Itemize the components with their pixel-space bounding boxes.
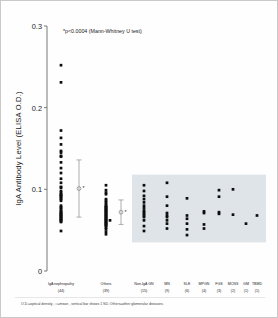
data-point [203,223,206,226]
data-point [166,219,169,222]
data-point [218,195,221,198]
data-point [143,230,146,233]
data-point [105,193,108,196]
footnote-text: O.D.=optical density , ○=mean , vertical… [21,302,164,306]
data-point [166,216,169,219]
data-point [60,129,63,132]
data-point [218,189,221,192]
y-tick-label-1: 0.1 [32,185,42,194]
p-value-annotation: *p<0.0004 (Mann-Whitney U test) [63,28,142,34]
data-point [143,195,146,198]
data-point [186,234,189,237]
data-point [186,228,189,231]
data-point [60,230,63,233]
y-tick-label-0: 0 [38,267,42,276]
data-point [186,197,189,200]
data-point [60,167,63,170]
data-point [166,204,169,207]
data-point [60,221,63,224]
data-point [60,177,63,180]
data-point [166,181,169,184]
x-category-label-7: MCNS [228,282,239,286]
data-point [232,213,235,216]
x-category-label-8: GM [243,282,249,286]
data-point [60,151,63,154]
data-point [60,143,63,146]
data-point [203,227,206,230]
shaded-region [132,175,266,243]
figure-container: 00.10.20.3IgA Antibody Level (ELISA O.D.… [0,0,278,318]
data-point [186,214,189,217]
data-point [105,184,108,187]
data-point [60,64,63,67]
data-point [143,207,146,210]
x-count-label-7: (2) [231,289,235,293]
x-category-label-2: Non-IgA GN [134,282,154,286]
scatter-plot: 00.10.20.3IgA Antibody Level (ELISA O.D.… [1,1,278,318]
data-point [143,204,146,207]
data-point [245,222,248,225]
y-axis-label: IgA Antibody Level (ELISA O.D.) [14,91,23,206]
data-point [105,230,108,233]
data-point [232,188,235,191]
x-category-label-0: IgA nephropathy [48,282,74,286]
data-point [256,214,259,217]
data-point [166,212,169,215]
data-point [143,198,146,201]
x-category-label-9: TBMD [252,282,263,286]
x-category-label-5: MPGN [199,282,210,286]
x-count-label-6: (3) [217,289,221,293]
significance-star-0: * [83,185,85,191]
data-point [143,201,146,204]
x-count-label-1: (39) [103,289,109,293]
data-point [60,172,63,175]
data-point [105,189,108,192]
data-point [60,155,63,158]
x-count-label-3: (9) [165,289,169,293]
x-category-label-6: FGS [215,282,223,286]
x-category-label-4: SLE [184,282,191,286]
data-point [60,81,63,84]
data-point [143,219,146,222]
data-point [143,216,146,219]
data-point [143,225,146,228]
x-count-label-9: (1) [255,289,259,293]
y-tick-label-2: 0.2 [32,104,42,113]
x-count-label-4: (6) [185,289,189,293]
x-count-label-2: (15) [141,289,147,293]
data-point [203,212,206,215]
data-point [166,227,169,230]
data-point [166,195,169,198]
x-count-label-0: (44) [58,289,64,293]
data-point [143,190,146,193]
data-point [60,186,63,189]
data-point [60,199,63,202]
x-category-label-1: Others [101,282,112,286]
data-point [186,217,189,220]
x-category-label-3: MN [164,282,170,286]
data-point [109,219,112,222]
data-point [166,222,169,225]
x-count-label-5: (4) [202,289,206,293]
data-point [60,161,63,164]
data-point [105,233,108,236]
x-count-label-8: (1) [244,289,248,293]
data-point [218,212,221,215]
data-point [60,181,63,184]
y-tick-label-3: 0.3 [32,22,42,31]
data-point [105,228,108,231]
data-point [143,184,146,187]
data-point [60,137,63,140]
significance-star-1: * [125,209,127,215]
data-point [186,222,189,225]
